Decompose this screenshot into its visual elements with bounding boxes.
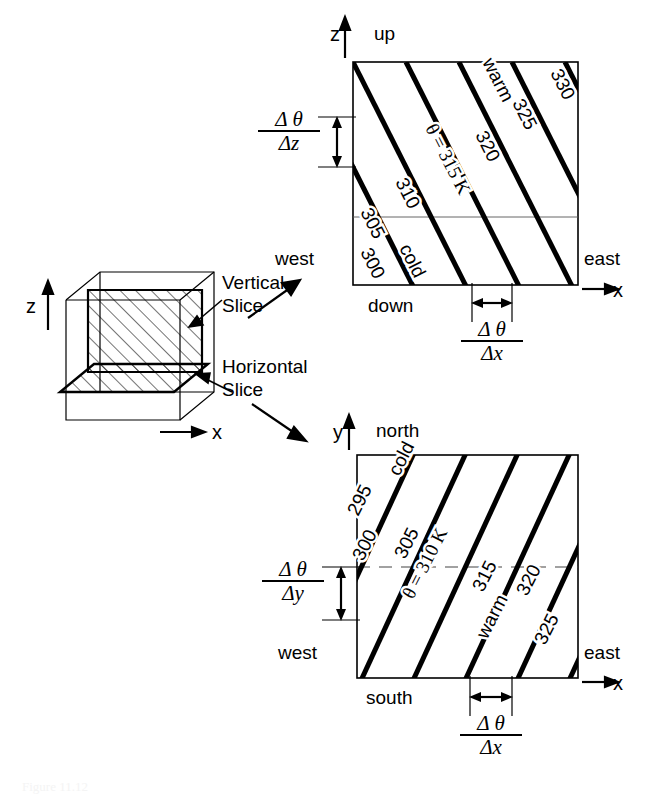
horizontal-panel-x-label: x [613, 673, 623, 693]
dy-denominator: Δy [262, 580, 324, 604]
horizontal-gradient-dy-marker [322, 566, 360, 621]
dx-numerator-bottom: Δ θ [460, 712, 522, 734]
horizontal-panel-south-label: south [366, 688, 412, 707]
horizontal-gradient-dx-marker [469, 676, 513, 716]
horizontal-gradient-dx-fraction: Δ θ Δx [460, 712, 522, 758]
contour-label-295: 295 [343, 481, 376, 519]
horizontal-slice-panel: 295 300 305 θ = 310 K 315 320 325 cold w… [0, 0, 657, 800]
horizontal-panel-y-label: y [333, 422, 343, 442]
dx-denominator-bottom: Δx [460, 734, 522, 758]
horizontal-gradient-dy-fraction: Δ θ Δy [262, 558, 324, 604]
warm-label-horizontal: warm [471, 591, 511, 643]
contour-310 [456, 440, 576, 700]
horizontal-panel-north-label: north [376, 421, 419, 440]
figure-caption: Figure 11.12 [22, 779, 88, 795]
horizontal-panel-east-label: east [584, 643, 620, 662]
horizontal-panel-west-label: west [278, 643, 317, 662]
figure-canvas: z x Vertical Slice Horizontal Slice 300 … [0, 0, 657, 800]
horizontal-panel-y-axis [344, 415, 354, 450]
dy-numerator: Δ θ [262, 558, 324, 580]
contour-label-315: 315 [468, 557, 501, 595]
